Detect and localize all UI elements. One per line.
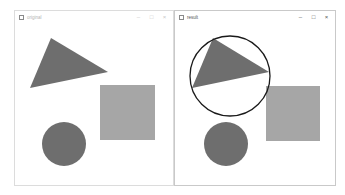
- circle-original: [42, 122, 86, 166]
- triangle-original: [30, 38, 108, 88]
- square-result: [266, 86, 320, 141]
- shapes-canvas: [0, 0, 345, 195]
- circle-result: [204, 122, 248, 166]
- square-original: [100, 85, 155, 140]
